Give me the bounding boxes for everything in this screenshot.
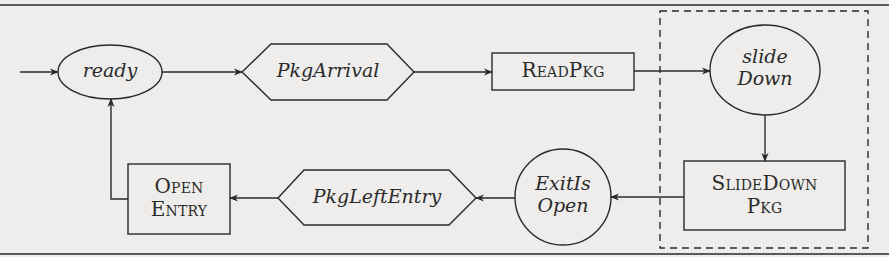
state-diagram: ready slide Down ExitIs Open PkgArrival … — [0, 0, 889, 257]
state-exit-is-open-line1: ExitIs — [515, 173, 611, 195]
event-pkg-left-entry-label: PkgLeftEntry — [278, 186, 476, 208]
state-slide-down-line2: Down — [710, 68, 820, 90]
state-slide-down-line1: slide — [710, 46, 820, 68]
state-slide-down-label: slide Down — [710, 46, 820, 90]
edge-open-entry-to-ready — [111, 99, 128, 199]
action-read-pkg-label: ReadPkg — [492, 59, 634, 82]
action-open-entry-line1: Open — [128, 175, 230, 198]
action-slide-down-pkg-label: SlideDown Pkg — [684, 172, 845, 218]
state-ready-label: ready — [58, 60, 162, 82]
state-exit-is-open-line2: Open — [515, 195, 611, 217]
event-pkg-arrival-label: PkgArrival — [242, 60, 414, 82]
action-slide-down-pkg-line1: SlideDown — [684, 172, 845, 195]
action-open-entry-label: Open Entry — [128, 175, 230, 221]
state-exit-is-open-label: ExitIs Open — [515, 173, 611, 217]
action-open-entry-line2: Entry — [128, 198, 230, 221]
action-slide-down-pkg-line2: Pkg — [684, 195, 845, 218]
